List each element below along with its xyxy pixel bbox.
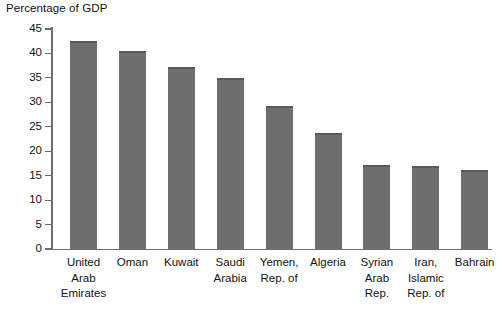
y-tick-mark	[45, 102, 52, 103]
y-tick-mark	[45, 28, 52, 29]
x-axis-label-line: Rep. of	[238, 271, 320, 287]
x-axis-label-line: Arab	[43, 271, 125, 287]
bar-algeria	[315, 133, 342, 249]
y-tick-label: 30	[2, 96, 42, 108]
bar-saudi-arabia	[217, 78, 244, 249]
y-tick-mark	[45, 77, 52, 78]
y-tick-label: 5	[2, 219, 42, 231]
bar-iran-islamic-rep-of	[412, 166, 439, 249]
bar-kuwait	[168, 67, 195, 249]
y-tick-mark	[45, 224, 52, 225]
y-tick-label: 25	[2, 121, 42, 133]
y-tick-label: 0	[2, 243, 42, 255]
bar-oman	[119, 51, 146, 249]
y-tick-label: 45	[2, 23, 42, 35]
y-tick-mark	[45, 53, 52, 54]
y-tick-mark	[45, 175, 52, 176]
bar-chart: Percentage of GDP 051015202530354045 Uni…	[0, 0, 497, 309]
x-axis-label-line: Emirates	[43, 286, 125, 302]
x-axis-label: Bahrain	[434, 255, 497, 271]
bar-syrian-arab-rep	[363, 165, 390, 249]
y-tick-label: 40	[2, 47, 42, 59]
chart-title: Percentage of GDP	[6, 2, 107, 15]
bar-yemen-rep-of	[266, 106, 293, 249]
bar-united-arab-emirates	[70, 41, 97, 249]
x-axis-label-line: Islamic	[385, 271, 467, 287]
y-tick-label: 20	[2, 145, 42, 157]
y-tick-mark	[45, 248, 52, 249]
bar-bahrain	[461, 170, 488, 249]
y-tick-mark	[45, 200, 52, 201]
y-tick-mark	[45, 151, 52, 152]
x-axis-label-line: Bahrain	[434, 255, 497, 271]
x-axis-label-line: Rep. of	[385, 286, 467, 302]
y-tick-label: 35	[2, 72, 42, 84]
y-tick-mark	[45, 126, 52, 127]
y-tick-label: 15	[2, 170, 42, 182]
y-axis-line	[51, 27, 53, 250]
y-tick-label: 10	[2, 194, 42, 206]
